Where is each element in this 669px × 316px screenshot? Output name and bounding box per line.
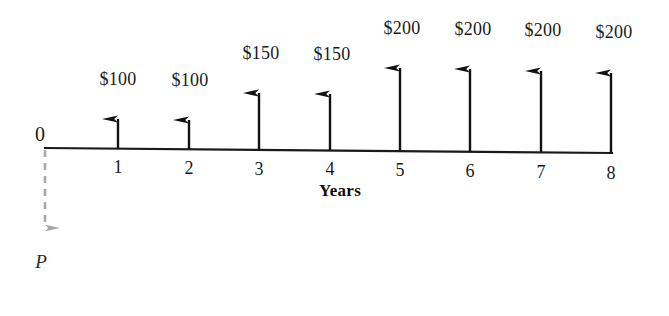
tick-label-4: 4 (326, 160, 335, 178)
cash-flow-label-year-1: $100 (100, 70, 137, 88)
cash-flow-label-year-8: $200 (596, 23, 633, 41)
cash-flow-label-year-2: $100 (172, 71, 209, 89)
cash-flow-label-year-6: $200 (455, 20, 492, 38)
cash-flow-label-year-7: $200 (525, 21, 562, 39)
tick-label-3: 3 (255, 160, 264, 178)
present-value-label: P (35, 252, 47, 271)
origin-label: 0 (35, 124, 45, 144)
axis-title-years: Years (319, 182, 361, 199)
tick-label-1: 1 (114, 158, 123, 176)
cash-flow-label-year-4: $150 (314, 45, 351, 63)
tick-label-7: 7 (537, 163, 546, 181)
cash-flow-label-year-5: $200 (384, 19, 421, 37)
tick-label-6: 6 (466, 162, 475, 180)
cash-flow-diagram: 0 $100 $100 $150 $150 $200 $200 $200 $20… (0, 0, 669, 316)
tick-label-5: 5 (396, 161, 405, 179)
cash-flow-label-year-3: $150 (243, 44, 280, 62)
timeline-axis (45, 148, 612, 153)
tick-label-2: 2 (185, 159, 194, 177)
tick-label-8: 8 (607, 164, 616, 182)
